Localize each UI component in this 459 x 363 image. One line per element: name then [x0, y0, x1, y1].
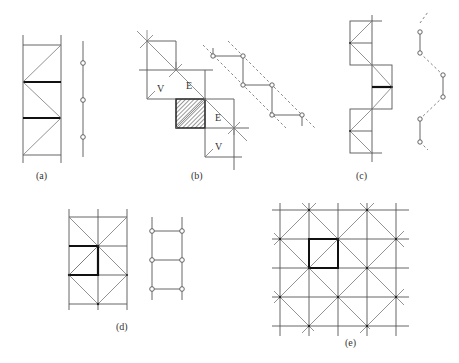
panel-d-lattice — [68, 209, 128, 310]
panel-d-caption: (d) — [116, 321, 128, 332]
panel-c-chain — [418, 12, 445, 150]
panel-c-lattice — [349, 15, 393, 162]
panel-c-caption: (c) — [356, 170, 367, 181]
panel-a-chain — [81, 41, 86, 157]
panel-d-ladder — [150, 217, 185, 300]
panel-b-label-e1: E — [186, 80, 192, 91]
panel-b-lattice — [137, 30, 249, 170]
panel-b-label-e2: E — [215, 112, 221, 123]
panel-e-caption: (e) — [345, 337, 356, 348]
panel-b-label-v2: V — [215, 141, 223, 152]
panel-a-caption: (a) — [36, 170, 47, 181]
panel-a-lattice — [23, 35, 61, 163]
panel-e-lattice — [272, 203, 409, 336]
panel-b-caption: (b) — [191, 170, 203, 181]
panel-b-label-v1: V — [157, 83, 165, 94]
figure-canvas: V E E V — [0, 0, 459, 363]
